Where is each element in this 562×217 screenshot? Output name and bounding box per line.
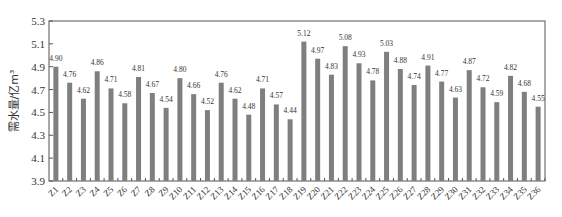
bar	[122, 103, 127, 181]
bar	[219, 83, 224, 181]
bar	[260, 88, 265, 181]
value-label: 5.03	[380, 39, 393, 48]
value-label: 4.52	[201, 97, 214, 106]
bar	[164, 108, 169, 181]
bar	[536, 107, 541, 181]
bar	[177, 78, 182, 181]
bar	[205, 110, 210, 181]
value-label: 4.54	[160, 95, 173, 104]
y-tick-label: 3.9	[31, 175, 45, 187]
value-label: 4.55	[532, 94, 545, 103]
bar	[274, 104, 279, 181]
x-tick-label: Z1	[46, 184, 60, 198]
bar	[191, 94, 196, 181]
value-label: 4.62	[228, 86, 241, 95]
bar	[301, 42, 306, 181]
bar	[398, 69, 403, 181]
value-label: 4.58	[118, 90, 131, 99]
value-label: 4.78	[366, 67, 379, 76]
bar	[315, 59, 320, 181]
value-label: 4.59	[490, 89, 503, 98]
bar	[343, 46, 348, 181]
bar	[357, 63, 362, 181]
bar	[425, 66, 430, 181]
value-label: 4.71	[256, 75, 269, 84]
bar	[412, 85, 417, 181]
value-label: 4.93	[352, 50, 365, 59]
bar	[467, 70, 472, 181]
bar	[67, 83, 72, 181]
bar	[370, 80, 375, 181]
value-label: 4.48	[242, 102, 255, 111]
value-label: 4.68	[518, 79, 531, 88]
value-label: 5.12	[297, 29, 310, 38]
value-label: 4.74	[408, 72, 421, 81]
value-label: 4.76	[63, 70, 76, 79]
value-label: 4.63	[449, 85, 462, 94]
y-tick-label: 4.9	[31, 61, 45, 73]
bar	[150, 93, 155, 181]
y-axis-label: 需水量/亿m³	[8, 70, 21, 133]
value-label: 5.08	[339, 33, 352, 42]
bar	[81, 99, 86, 181]
bar	[508, 76, 513, 181]
x-tick-label: Z6	[115, 184, 129, 198]
bar	[453, 98, 458, 181]
y-tick-label: 4.3	[31, 129, 45, 141]
value-label: 4.97	[311, 46, 324, 55]
value-label: 4.77	[435, 69, 448, 78]
bar	[288, 119, 293, 181]
bar	[384, 52, 389, 181]
bar-chart: 需水量/亿m³ 3.94.14.34.54.74.95.15.34.90Z14.…	[0, 0, 562, 217]
bar	[494, 102, 499, 181]
value-label: 4.57	[270, 91, 283, 100]
value-label: 4.80	[173, 65, 186, 74]
value-label: 4.71	[104, 75, 117, 84]
value-label: 4.90	[49, 54, 62, 63]
value-label: 4.83	[325, 62, 338, 71]
x-tick-label: Z3	[74, 184, 88, 198]
value-label: 4.44	[284, 106, 297, 115]
value-label: 4.76	[215, 70, 228, 79]
value-label: 4.66	[187, 81, 200, 90]
bar	[439, 82, 444, 181]
value-label: 4.81	[132, 64, 145, 73]
value-label: 4.86	[91, 58, 104, 67]
plot-area: 3.94.14.34.54.74.95.15.34.90Z14.76Z24.62…	[31, 15, 545, 202]
value-label: 4.91	[421, 53, 434, 62]
bar	[109, 88, 114, 181]
value-label: 4.67	[146, 80, 159, 89]
value-label: 4.88	[394, 56, 407, 65]
x-tick-label: Z5	[101, 184, 115, 198]
y-tick-label: 4.1	[31, 152, 45, 164]
x-tick-label: Z8	[143, 184, 157, 198]
bar	[95, 71, 100, 181]
bar	[481, 87, 486, 181]
value-label: 4.82	[504, 63, 517, 72]
bar	[246, 115, 251, 181]
value-label: 4.62	[77, 86, 90, 95]
x-tick-label: Z2	[60, 184, 74, 198]
x-tick-label: Z36	[525, 184, 543, 202]
y-tick-label: 4.7	[31, 84, 45, 96]
y-tick-label: 4.5	[31, 106, 45, 118]
bar	[522, 92, 527, 181]
value-label: 4.72	[476, 74, 489, 83]
bar	[136, 77, 141, 181]
x-tick-label: Z4	[87, 184, 101, 198]
y-tick-label: 5.3	[31, 15, 45, 27]
bar	[329, 75, 334, 181]
bar	[53, 67, 58, 181]
value-label: 4.87	[463, 57, 476, 66]
bar	[233, 99, 238, 181]
y-tick-label: 5.1	[31, 38, 45, 50]
x-tick-label: Z7	[129, 184, 143, 198]
